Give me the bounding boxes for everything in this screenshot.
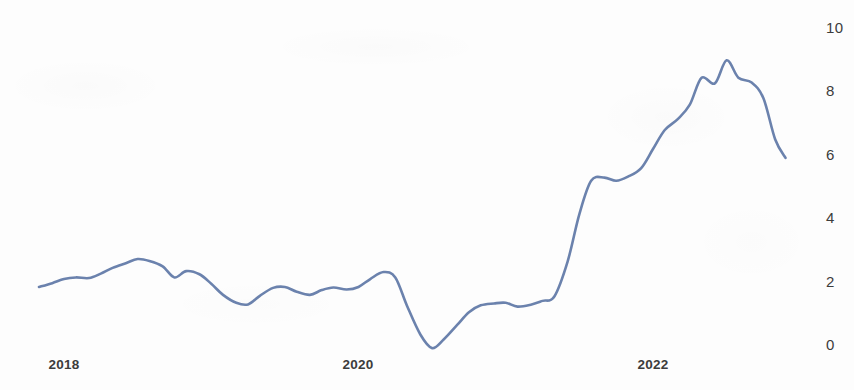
- x-tick-2020: 2020: [342, 357, 373, 372]
- inflation-line-chart: 10 8 6 4 2 0 2018 2020 2022: [0, 0, 854, 390]
- x-tick-2018: 2018: [48, 357, 79, 372]
- x-axis-labels: 2018 2020 2022: [0, 0, 854, 390]
- x-tick-2022: 2022: [637, 357, 668, 372]
